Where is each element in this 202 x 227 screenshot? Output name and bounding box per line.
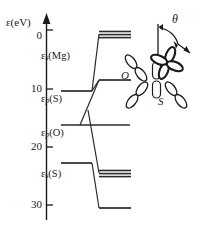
atom-label-oxygen: O — [121, 70, 129, 81]
molecular-orbital-sketch — [123, 24, 190, 110]
axis-tick-label-20: 20 — [20, 141, 42, 152]
energy-level-diagram-figure: ε(eV) 0 10 20 30 εs(Mg) εp(S) εp(O) εs(S… — [0, 0, 202, 227]
level-label-eps-s-S-species: (S) — [48, 168, 61, 179]
oxygen-orbital-lower-left — [124, 80, 150, 110]
theta-arc-start-marker-icon — [159, 24, 164, 31]
axis-tick-label-30: 30 — [20, 199, 42, 210]
level-label-eps-p-O: εp(O) — [41, 128, 64, 139]
theta-pointer-arrowhead-icon — [184, 46, 191, 53]
axis-tick-label-0: 0 — [20, 30, 42, 41]
axis-title: ε(eV) — [6, 17, 31, 28]
level-label-eps-p-S-species: (S) — [49, 93, 62, 104]
level-label-eps-p-S: εp(S) — [41, 94, 62, 105]
level-label-eps-s-Mg: εs(Mg) — [41, 51, 70, 62]
energy-axis — [43, 13, 53, 220]
level-label-eps-p-O-species: (O) — [49, 127, 64, 138]
oxygen-orbital-lower-right — [163, 80, 189, 110]
theta-angle-label: θ — [172, 13, 178, 25]
level-label-eps-s-Mg-species: (Mg) — [48, 50, 70, 61]
axis-tick-label-10: 10 — [20, 83, 42, 94]
correlation-lines — [80, 34, 99, 208]
theta-arc — [160, 28, 178, 44]
atom-label-sulfur: S — [158, 96, 164, 107]
level-label-eps-s-S: εs(S) — [41, 169, 61, 180]
axis-arrowhead-icon — [43, 13, 51, 24]
